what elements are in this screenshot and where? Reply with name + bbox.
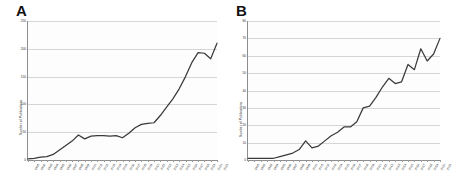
y-tick-label: 70 <box>242 36 246 40</box>
x-tick-mark <box>325 160 326 162</box>
x-tick-label: 1999 <box>84 163 91 171</box>
x-tick-mark <box>299 160 300 162</box>
y-tick-label: 80 <box>242 19 246 23</box>
x-tick-label: 2015 <box>185 163 192 171</box>
x-tick-mark <box>85 160 86 162</box>
y-tick-label: 30 <box>242 106 246 110</box>
x-tick-label: 1994 <box>273 163 280 171</box>
x-tick-mark <box>60 160 61 162</box>
x-tick-mark <box>129 160 130 162</box>
x-tick-label: 1992 <box>40 163 47 171</box>
x-tick-label: 1996 <box>65 163 72 171</box>
x-tick-label: 2021 <box>446 163 452 171</box>
x-tick-label: 2006 <box>128 163 135 171</box>
y-tick-label: 150 <box>21 75 26 79</box>
x-tick-mark <box>331 160 332 162</box>
x-tick-mark <box>192 160 193 162</box>
x-tick-mark <box>141 160 142 162</box>
x-tick-mark <box>363 160 364 162</box>
x-tick-label: 2019 <box>433 163 440 171</box>
x-tick-mark <box>123 160 124 162</box>
x-tick-mark <box>72 160 73 162</box>
x-tick-label: 2010 <box>153 163 160 171</box>
x-tick-mark <box>293 160 294 162</box>
x-tick-mark <box>286 160 287 162</box>
x-tick-mark <box>167 160 168 162</box>
line-path-b <box>248 38 440 158</box>
x-tick-mark <box>427 160 428 162</box>
y-tick-label: 100 <box>21 102 26 106</box>
x-tick-mark <box>254 160 255 162</box>
plot-area-b: 01020304050607080 1991199219931994199519… <box>247 21 440 161</box>
x-tick-mark <box>148 160 149 162</box>
x-tick-mark <box>344 160 345 162</box>
panel-label-a: A <box>16 2 27 19</box>
x-tick-mark <box>217 160 218 162</box>
line-series-a <box>28 21 217 160</box>
x-tick-mark <box>318 160 319 162</box>
x-tick-label: 2016 <box>191 163 198 171</box>
x-tick-mark <box>357 160 358 162</box>
x-tick-mark <box>198 160 199 162</box>
x-tick-mark <box>91 160 92 162</box>
x-tick-mark <box>261 160 262 162</box>
y-tick-label: 250 <box>21 19 26 23</box>
x-tick-mark <box>440 160 441 162</box>
x-tick-mark <box>135 160 136 162</box>
x-tick-label: 2017 <box>420 163 427 171</box>
x-tick-mark <box>376 160 377 162</box>
x-tick-mark <box>408 160 409 162</box>
chart-panel-a: A Number of Publications 050100150200250… <box>0 0 222 187</box>
x-tick-mark <box>34 160 35 162</box>
x-tick-label: 2002 <box>324 163 331 171</box>
x-tick-mark <box>110 160 111 162</box>
y-tick-label: 200 <box>21 47 26 51</box>
x-tick-mark <box>274 160 275 162</box>
x-tick-mark <box>47 160 48 162</box>
x-tick-label: 2019 <box>210 163 217 171</box>
x-tick-mark <box>179 160 180 162</box>
x-tick-mark <box>66 160 67 162</box>
x-tick-mark <box>414 160 415 162</box>
x-tick-mark <box>389 160 390 162</box>
x-tick-mark <box>280 160 281 162</box>
line-path-a <box>28 43 217 159</box>
x-tick-mark <box>211 160 212 162</box>
y-tick-label: 50 <box>242 71 246 75</box>
x-tick-label: 2009 <box>147 163 154 171</box>
x-tick-mark <box>53 160 54 162</box>
y-tick-label: 10 <box>242 141 246 145</box>
x-tick-label: 2002 <box>103 163 110 171</box>
chart-panel-b: B Number of Publications 010203040506070… <box>222 0 444 187</box>
y-tick-label: 60 <box>242 54 246 58</box>
x-tick-mark <box>160 160 161 162</box>
x-tick-label: 1999 <box>305 163 312 171</box>
x-tick-label: 2004 <box>337 163 344 171</box>
x-tick-mark <box>28 160 29 162</box>
y-tick-label: 0 <box>244 158 246 162</box>
x-tick-label: 1995 <box>59 163 66 171</box>
x-tick-mark <box>434 160 435 162</box>
x-tick-mark <box>306 160 307 162</box>
x-tick-mark <box>402 160 403 162</box>
x-tick-mark <box>97 160 98 162</box>
x-tick-mark <box>78 160 79 162</box>
x-tick-mark <box>173 160 174 162</box>
x-tick-label: 2009 <box>369 163 376 171</box>
y-tick-label: 0 <box>24 158 26 162</box>
x-tick-label: 2012 <box>388 163 395 171</box>
y-tick-label: 40 <box>242 89 246 93</box>
x-tick-label: 2012 <box>166 163 173 171</box>
x-tick-mark <box>350 160 351 162</box>
x-tick-mark <box>154 160 155 162</box>
x-tick-mark <box>370 160 371 162</box>
x-tick-label: 2010 <box>375 163 382 171</box>
x-tick-mark <box>312 160 313 162</box>
x-tick-mark <box>395 160 396 162</box>
x-tick-mark <box>248 160 249 162</box>
y-tick-label: 20 <box>242 123 246 127</box>
x-tick-mark <box>204 160 205 162</box>
x-tick-mark <box>338 160 339 162</box>
x-tick-mark <box>186 160 187 162</box>
